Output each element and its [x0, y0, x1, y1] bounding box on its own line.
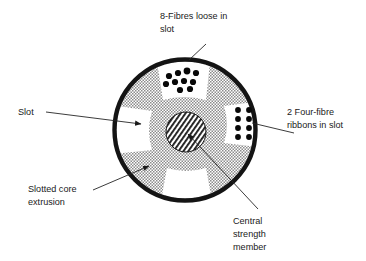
label-ribbons-line1: 2 Four-fibre: [287, 107, 334, 117]
label-central-member-line1: Central: [233, 216, 262, 226]
central-strength-member: [166, 112, 206, 152]
fibre-dot: [177, 87, 183, 93]
label-ribbons-line2: ribbons in slot: [287, 120, 344, 130]
fibre-dot: [163, 81, 169, 87]
fibre-dot: [187, 86, 193, 92]
slot-left: [104, 104, 152, 155]
leader-fibres-loose: [189, 44, 206, 60]
ribbon-fibre-dot: [235, 125, 241, 131]
cable-body: [104, 60, 268, 207]
fibre-dot: [166, 73, 172, 79]
fibre-dot: [184, 68, 191, 75]
ribbon-fibre-dot: [246, 134, 252, 140]
ribbon-fibre-dot: [246, 116, 252, 122]
slot-right: [224, 100, 268, 148]
ribbon-fibre-dot: [235, 116, 241, 122]
label-fibres-loose-line2: slot: [160, 24, 175, 34]
ribbon-fibre-dot: [235, 107, 241, 113]
cable-cross-section-diagram: 8-Fibres loose in slot Slot 2 Four-fibre…: [0, 0, 366, 261]
label-fibres-loose-line1: 8-Fibres loose in: [160, 11, 227, 21]
fibre-dot: [190, 79, 196, 85]
fibre-dot: [193, 70, 199, 76]
label-slotted-core-line1: Slotted core: [28, 184, 77, 194]
label-central-member-line2: strength: [233, 229, 266, 239]
figure-container: 8-Fibres loose in slot Slot 2 Four-fibre…: [0, 0, 366, 261]
fibre-dot: [175, 70, 181, 76]
fibre-dot: [172, 79, 178, 85]
fibre-dot: [181, 78, 187, 84]
label-slotted-core-line2: extrusion: [28, 197, 65, 207]
ribbon-fibre-dot: [246, 125, 252, 131]
label-slot: Slot: [18, 107, 34, 117]
label-central-member-line3: member: [233, 242, 266, 252]
ribbon-fibre-dot: [246, 107, 252, 113]
ribbon-fibre-dot: [235, 134, 241, 140]
